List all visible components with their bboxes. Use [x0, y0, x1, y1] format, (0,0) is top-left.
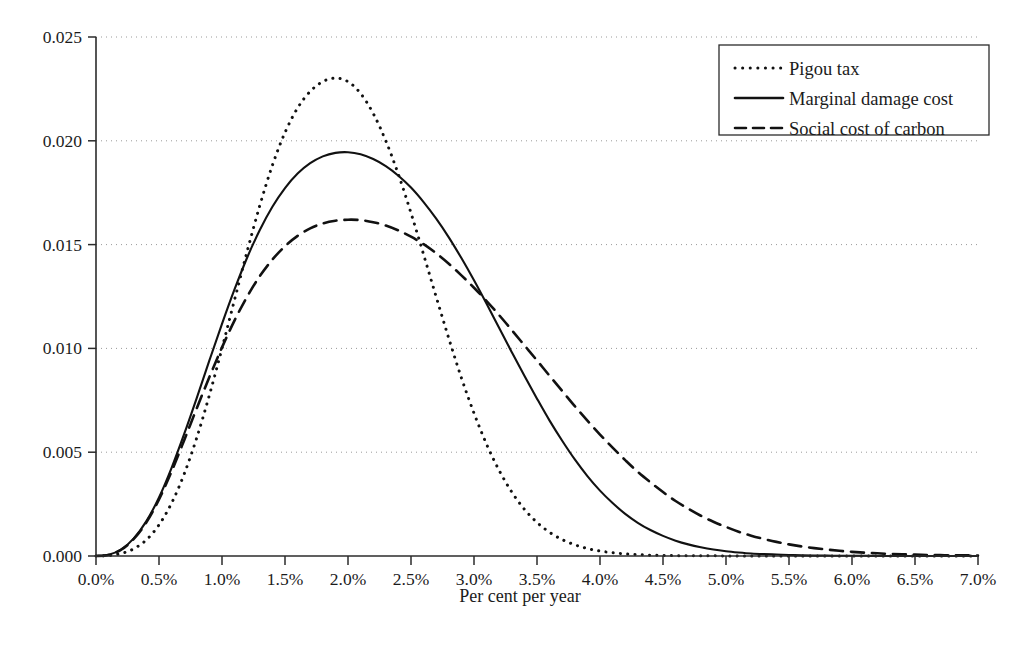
- x-axis-title: Per cent per year: [459, 586, 580, 606]
- y-tick-label: 0.010: [43, 338, 83, 358]
- chart-legend: Pigou taxMarginal damage costSocial cost…: [719, 45, 989, 139]
- x-tick-label: 1.0%: [204, 569, 240, 589]
- x-tick-label: 6.0%: [834, 569, 870, 589]
- x-tick-label: 4.5%: [645, 569, 681, 589]
- legend-label: Social cost of carbon: [789, 119, 945, 139]
- x-tick-label: 0.5%: [141, 569, 177, 589]
- x-tick-label: 6.5%: [897, 569, 933, 589]
- y-tick-label: 0.020: [43, 131, 83, 151]
- y-tick-label: 0.000: [43, 546, 83, 566]
- chart-plot-area: 0.0000.0050.0100.0150.0200.025 0.0%0.5%1…: [0, 0, 1029, 646]
- legend-label: Pigou tax: [789, 59, 860, 79]
- x-tick-label: 4.0%: [582, 569, 618, 589]
- x-tick-label: 2.5%: [393, 569, 429, 589]
- x-tick-label: 0.0%: [78, 569, 114, 589]
- chart-figure: 0.0000.0050.0100.0150.0200.025 0.0%0.5%1…: [0, 0, 1029, 646]
- x-tick-label: 5.5%: [771, 569, 807, 589]
- y-tick-label: 0.005: [43, 442, 83, 462]
- y-tick-label: 0.025: [43, 27, 83, 47]
- x-tick-label: 5.0%: [708, 569, 744, 589]
- y-tick-label: 0.015: [43, 235, 83, 255]
- x-tick-label: 7.0%: [960, 569, 996, 589]
- x-tick-label: 2.0%: [330, 569, 366, 589]
- x-tick-label: 1.5%: [267, 569, 303, 589]
- legend-label: Marginal damage cost: [789, 89, 954, 109]
